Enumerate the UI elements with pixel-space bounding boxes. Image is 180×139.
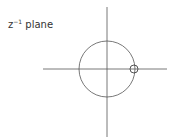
z-plane-diagram <box>0 0 180 139</box>
